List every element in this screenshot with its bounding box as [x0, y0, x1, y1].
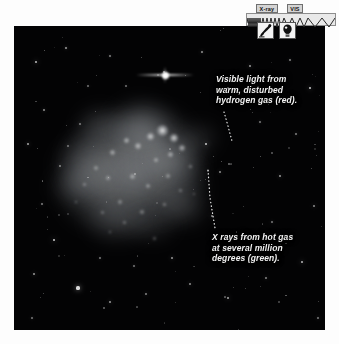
screenshot-root: Visible light from warm, disturbed hydro… — [0, 0, 339, 344]
band-button-xray[interactable]: X-ray — [256, 4, 278, 13]
annotation-xray: X rays from hot gas at several million d… — [212, 232, 324, 264]
band-button-vis[interactable]: VIS — [287, 4, 303, 13]
annotation-visible-light: Visible light from warm, disturbed hydro… — [216, 74, 322, 106]
telescope-icon[interactable] — [257, 22, 274, 39]
leader-line-visible-light — [0, 0, 339, 344]
wavelength-band-selector[interactable]: X-ray VIS — [244, 2, 336, 40]
eye-icon[interactable] — [279, 22, 296, 39]
